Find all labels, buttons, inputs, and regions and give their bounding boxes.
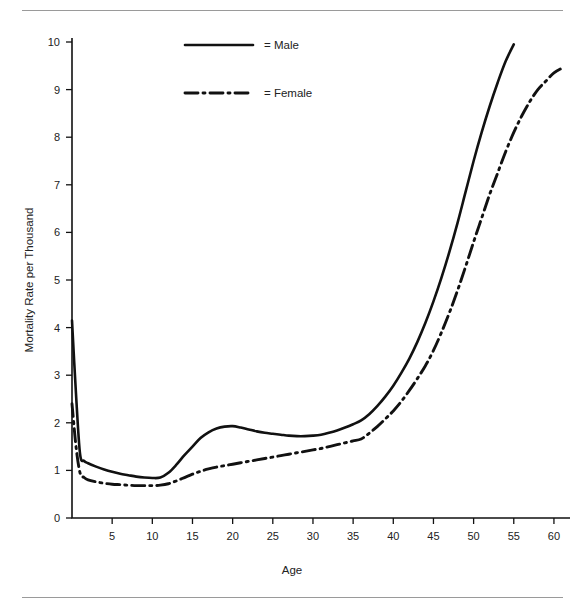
y-axis-title: Mortality Rate per Thousand <box>23 208 35 353</box>
legend-label-male: = Male <box>264 39 299 51</box>
x-tick-label: 35 <box>347 530 359 542</box>
y-tick-label: 9 <box>54 84 60 96</box>
chart-canvas: 01234567891051015202530354045505560 Age … <box>0 0 585 608</box>
y-tick-label: 5 <box>54 274 60 286</box>
x-tick-label: 30 <box>307 530 319 542</box>
y-tick-label: 0 <box>54 512 60 524</box>
y-tick-label: 8 <box>54 131 60 143</box>
x-axis-title: Age <box>282 564 302 576</box>
mortality-rate-chart: 01234567891051015202530354045505560 Age … <box>0 0 585 608</box>
x-tick-label: 5 <box>109 530 115 542</box>
data-series <box>72 44 562 485</box>
x-tick-label: 20 <box>227 530 239 542</box>
y-tick-label: 1 <box>54 464 60 476</box>
legend-label-female: = Female <box>264 87 312 99</box>
x-tick-label: 45 <box>427 530 439 542</box>
x-tick-label: 60 <box>548 530 560 542</box>
x-tick-label: 50 <box>467 530 479 542</box>
x-tick-label: 15 <box>186 530 198 542</box>
x-tick-label: 10 <box>146 530 158 542</box>
x-tick-label: 25 <box>267 530 279 542</box>
y-tick-label: 2 <box>54 417 60 429</box>
y-tick-label: 4 <box>54 322 60 334</box>
chart-legend <box>185 45 253 93</box>
axis-group <box>72 38 570 518</box>
tick-labels: 01234567891051015202530354045505560 <box>48 36 560 542</box>
y-tick-label: 3 <box>54 369 60 381</box>
y-tick-label: 6 <box>54 226 60 238</box>
axis-lines <box>72 38 570 518</box>
x-tick-label: 40 <box>387 530 399 542</box>
y-tick-label: 10 <box>48 36 60 48</box>
series-line-male <box>72 44 514 478</box>
y-tick-label: 7 <box>54 179 60 191</box>
series-line-female <box>72 68 562 485</box>
x-tick-label: 55 <box>508 530 520 542</box>
